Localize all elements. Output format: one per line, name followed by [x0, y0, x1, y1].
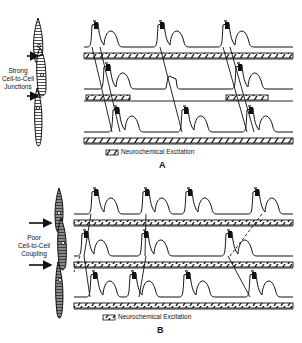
neurochemical-excitation-bar — [86, 95, 130, 100]
excitation-trace — [84, 23, 293, 47]
release-marker-icon — [132, 272, 136, 279]
neurochemical-excitation-bar — [74, 220, 293, 225]
muscle-cells-poor-coupling — [55, 188, 66, 318]
release-marker-icon — [188, 189, 192, 196]
excitation-trace — [74, 190, 293, 214]
side-label-b-line3: Coupling — [14, 250, 54, 258]
release-marker-icon — [106, 64, 110, 71]
cell-b3 — [56, 262, 63, 318]
neurochemical-excitation-bar — [226, 95, 268, 100]
panel-letter-b: B — [157, 325, 164, 335]
side-label-a-line1: Strong — [0, 67, 36, 75]
legend-hatch-swatch-b — [103, 315, 115, 320]
diagram-canvas — [0, 0, 302, 343]
conduction-line — [100, 47, 120, 132]
neurochemical-excitation-bar — [74, 262, 293, 267]
neurochemical-excitation-bar — [84, 138, 293, 143]
release-marker-icon — [94, 189, 98, 196]
release-marker-icon — [252, 272, 256, 279]
side-label-b-line1: Poor — [14, 234, 54, 242]
neurochemical-excitation-bar — [74, 303, 293, 308]
release-marker-icon — [186, 272, 190, 279]
legend-text-a: Neurochemical Excitation — [121, 148, 194, 155]
side-label-b-line2: Cell-to-Cell — [14, 242, 54, 250]
side-label-a-line2: Cell-to-Cell — [0, 75, 36, 83]
excitation-traces — [74, 21, 293, 309]
conduction-line — [230, 47, 254, 132]
neurochemical-excitation-bar — [84, 53, 293, 58]
excitation-trace — [74, 273, 293, 297]
side-label-a-line3: Junctions — [0, 83, 36, 91]
release-marker-icon — [94, 22, 98, 29]
side-label-a: Strong Cell-to-Cell Junctions — [0, 67, 36, 91]
side-label-b: Poor Cell-to-Cell Coupling — [14, 234, 54, 258]
release-marker-icon — [160, 22, 164, 29]
release-marker-icon — [184, 107, 188, 114]
excitation-trace — [84, 65, 293, 89]
release-marker-icon — [228, 231, 232, 238]
panel-letter-a: A — [159, 160, 166, 170]
release-marker-icon — [255, 189, 259, 196]
release-marker-icon — [145, 189, 149, 196]
legend-hatch-swatch-a — [106, 150, 118, 155]
release-marker-icon — [238, 64, 242, 71]
release-marker-icon — [225, 22, 229, 29]
legend-text-b: Neurochemical Excitation — [118, 313, 191, 320]
release-marker-icon — [93, 272, 97, 279]
excitation-trace — [74, 232, 293, 256]
release-marker-icon — [249, 107, 253, 114]
